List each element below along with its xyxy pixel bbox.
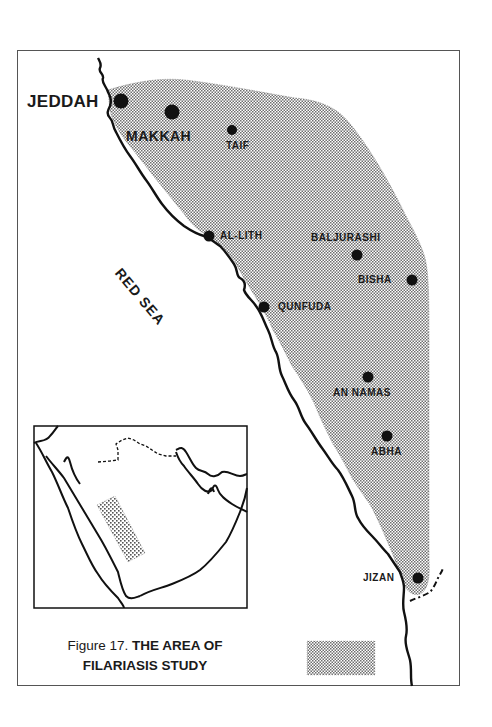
city-dot-annamas [363, 372, 374, 383]
label-annamas: AN NAMAS [333, 388, 391, 398]
label-jeddah: JEDDAH [27, 93, 99, 110]
city-dot-bisha [407, 275, 418, 286]
map-figure: JEDDAH MAKKAH TAIF AL-LITH BALJURASHI BI… [0, 0, 492, 727]
city-dot-baljurashi [352, 250, 363, 261]
caption-title-line2: FILARIASIS STUDY [83, 658, 208, 673]
city-dot-abha [382, 431, 393, 442]
legend-swatch [307, 641, 375, 675]
city-dot-qunfuda [259, 302, 270, 313]
label-allith: AL-LITH [220, 231, 262, 241]
figure-caption: Figure 17. THE AREA OF FILARIASIS STUDY [40, 636, 250, 676]
city-dot-taif [227, 125, 237, 135]
city-dot-jizan [413, 573, 424, 584]
caption-title-line1: THE AREA OF [132, 638, 223, 653]
label-jizan: JIZAN [363, 573, 394, 583]
caption-prefix: Figure 17. [67, 638, 128, 653]
label-qunfuda: QUNFUDA [278, 302, 332, 312]
label-taif: TAIF [226, 141, 249, 151]
city-dot-makkah [165, 105, 180, 120]
city-dot-allith [204, 231, 215, 242]
label-abha: ABHA [371, 447, 402, 457]
inset-map [34, 426, 247, 608]
label-baljurashi: BALJURASHI [311, 233, 380, 243]
city-dot-jeddah [114, 94, 129, 109]
label-makkah: MAKKAH [126, 129, 191, 143]
label-bisha: BISHA [358, 275, 392, 285]
